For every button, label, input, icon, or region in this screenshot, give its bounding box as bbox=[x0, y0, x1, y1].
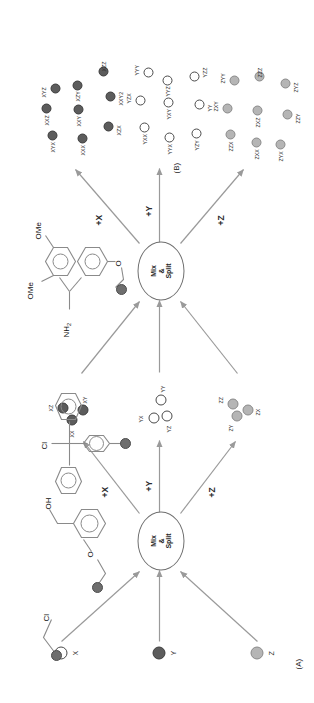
atom-label-ome-2: OMe bbox=[34, 222, 43, 239]
bead-label-yx: YX bbox=[138, 415, 144, 422]
bead-start-z bbox=[251, 646, 264, 659]
node2-line1: Mix bbox=[150, 265, 158, 277]
bead-label-xzz: XZZ bbox=[101, 61, 107, 71]
bead-label-xzy: XZY bbox=[75, 91, 81, 101]
bead-label-zxx: ZXX bbox=[254, 149, 260, 159]
reaction-label-round2-z: +Z bbox=[216, 215, 226, 225]
bead-label-z: Z bbox=[268, 651, 275, 655]
bead-label-zzx: ZZX bbox=[228, 141, 234, 151]
bead-label-zyz: ZYZ bbox=[293, 82, 299, 92]
bead-label-xzx: XZX bbox=[116, 125, 122, 135]
bead-label-yxy: YXY bbox=[166, 108, 172, 119]
bead-label-yxx: YXX bbox=[142, 133, 148, 144]
atom-label-oh-wang: OH bbox=[44, 497, 53, 509]
atom-label-cl-merrifield: Cl bbox=[42, 613, 51, 621]
bead-xxz bbox=[42, 103, 52, 113]
bead-yzz bbox=[190, 71, 200, 81]
bead-xxy bbox=[74, 104, 84, 114]
atom-label-cl-trityl: Cl bbox=[40, 441, 49, 449]
bead-xxy-2 bbox=[106, 91, 116, 101]
bead-label-xyx: XYX bbox=[50, 141, 56, 152]
bead-label-xxx: XXX bbox=[80, 144, 86, 155]
bead-zxx bbox=[252, 137, 262, 147]
mix-split-round-2: Mix & Split bbox=[138, 241, 185, 300]
bead-xzx bbox=[104, 121, 114, 131]
structure-rink-amide-resin bbox=[10, 183, 128, 373]
structure-wang-resin bbox=[12, 499, 112, 595]
bead-label-zy: ZY bbox=[228, 424, 234, 431]
bead-label-yyy: YYY bbox=[134, 64, 140, 75]
panel-label-a: (A) bbox=[294, 658, 303, 669]
bead-zz bbox=[228, 398, 239, 409]
bead-label-yyx: YYX bbox=[167, 143, 173, 154]
bead-label-xxz: XXZ bbox=[44, 115, 50, 125]
bead-yy bbox=[156, 394, 167, 405]
bead-zx bbox=[243, 404, 254, 415]
reaction-label-round1-y: +Y bbox=[144, 480, 154, 491]
bead-label-zyy: ZYY bbox=[220, 73, 226, 83]
bead-xzy bbox=[73, 80, 83, 90]
bead-yzy bbox=[192, 128, 202, 138]
node1-line2: & bbox=[157, 538, 165, 543]
node2-line2: & bbox=[157, 268, 165, 273]
bead-yyz bbox=[163, 75, 173, 85]
structure-trityl-chloride-resin bbox=[14, 393, 124, 493]
bead-xyz bbox=[51, 83, 61, 93]
bead-yxy bbox=[164, 97, 174, 107]
bead-yyx bbox=[165, 132, 175, 142]
bead-label-yy: YY bbox=[160, 385, 166, 392]
bead-label-xyz: XYZ bbox=[41, 87, 47, 97]
mix-split-round-1: Mix & Split bbox=[138, 511, 185, 570]
bead-label-yzz: YZZ bbox=[202, 67, 208, 77]
bead-label-x: X bbox=[72, 650, 79, 655]
bead-zzy bbox=[283, 109, 293, 119]
bead-label-yz: YZ bbox=[166, 425, 172, 432]
panel-label-b: (B) bbox=[172, 162, 181, 173]
bead-label-xxy: XXY bbox=[76, 115, 82, 126]
bead-zyy bbox=[230, 75, 240, 85]
bead-label-yyz: YYZ bbox=[165, 86, 171, 96]
bead-label-zzz: ZZZ bbox=[257, 67, 263, 77]
nh2-main: NH bbox=[62, 325, 71, 337]
bead-zzx bbox=[226, 129, 236, 139]
reaction-label-round2-y: +Y bbox=[144, 205, 154, 216]
bead-zxy bbox=[223, 103, 233, 113]
node1-line3: Split bbox=[165, 533, 173, 548]
bead-label-zx: ZX bbox=[255, 408, 261, 415]
bead-yzx bbox=[136, 95, 146, 105]
nh2-subscript: 2 bbox=[66, 322, 72, 325]
bead-yy-prod bbox=[195, 99, 205, 109]
bead-zyz bbox=[281, 78, 291, 88]
bead-yxx bbox=[140, 122, 150, 132]
bead-start-y bbox=[153, 646, 166, 659]
figure-canvas: X Y Z Mix & Split +X +Y +Z XX XZ XY YX Y… bbox=[4, 0, 314, 703]
bead-xyx bbox=[48, 130, 58, 140]
structure-merrifield-resin bbox=[22, 593, 68, 663]
atom-label-o-rink: O bbox=[114, 260, 123, 266]
bead-yx bbox=[149, 412, 160, 423]
bead-label-zxy: ZXY bbox=[213, 101, 219, 111]
atom-label-nh2-rink: NH2 bbox=[62, 322, 73, 337]
bead-label-y: Y bbox=[170, 650, 177, 655]
bead-label-xxy-2: XXY2 bbox=[118, 91, 124, 105]
bead-yz bbox=[162, 410, 173, 421]
bead-yyy bbox=[144, 67, 154, 77]
bead-label-yzy: YZY bbox=[194, 140, 200, 150]
bead-label-yzx: YZX bbox=[126, 93, 132, 103]
bead-label-zzy: ZZY bbox=[295, 113, 301, 123]
node1-line1: Mix bbox=[150, 535, 158, 547]
bead-zy bbox=[232, 410, 243, 421]
bead-label-zxz: ZXZ bbox=[255, 117, 261, 127]
node2-line3: Split bbox=[165, 263, 173, 278]
bead-label-zyx: ZYX bbox=[278, 151, 284, 161]
atom-label-ome-1: OMe bbox=[26, 282, 35, 299]
reaction-label-round1-z: +Z bbox=[207, 487, 217, 497]
bead-zyx bbox=[276, 139, 286, 149]
bead-zxz bbox=[253, 105, 263, 115]
bead-xxx bbox=[78, 133, 88, 143]
atom-label-o-wang: O bbox=[86, 551, 95, 557]
bead-label-zz: ZZ bbox=[218, 396, 224, 403]
